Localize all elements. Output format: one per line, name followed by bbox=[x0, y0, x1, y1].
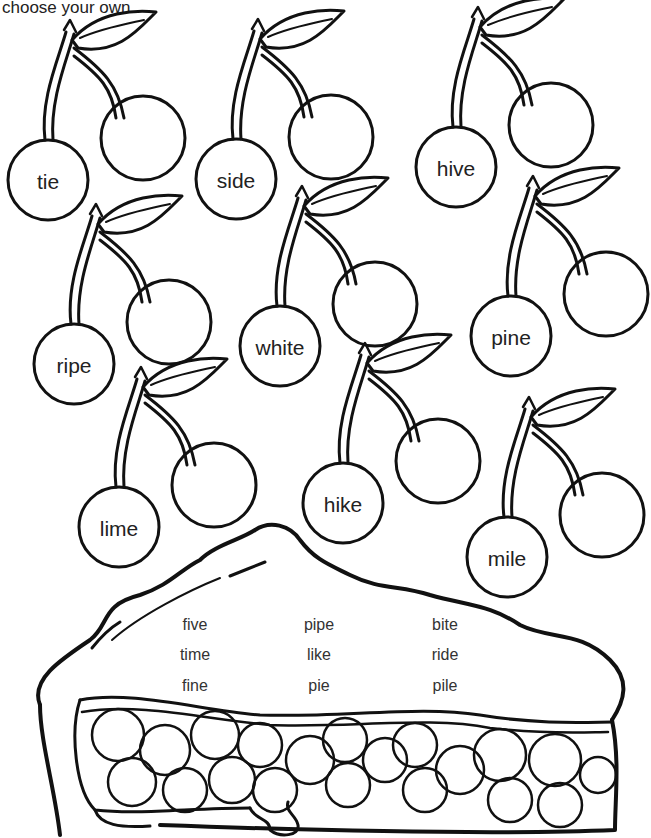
pie-word: time bbox=[180, 646, 210, 664]
cherry-word: tie bbox=[37, 170, 59, 194]
pie-word: pipe bbox=[304, 616, 334, 634]
pie-word: ride bbox=[432, 646, 459, 664]
cherry-word: mile bbox=[488, 547, 527, 571]
cherry-word: ripe bbox=[56, 354, 91, 378]
cherry-word: pine bbox=[491, 326, 531, 350]
cherry-word: lime bbox=[100, 517, 139, 541]
cherry-word: hike bbox=[324, 493, 363, 517]
pie-word: like bbox=[307, 646, 331, 664]
cherry-word: white bbox=[255, 336, 304, 360]
cherry-word: hive bbox=[437, 157, 476, 181]
pie-word: five bbox=[183, 616, 208, 634]
pie-word: bite bbox=[432, 616, 458, 634]
cherry-word: side bbox=[217, 169, 256, 193]
worksheet-artwork bbox=[0, 0, 651, 838]
pie-word: fine bbox=[182, 677, 208, 695]
pie-word: pile bbox=[433, 677, 458, 695]
pie-word: pie bbox=[308, 677, 329, 695]
